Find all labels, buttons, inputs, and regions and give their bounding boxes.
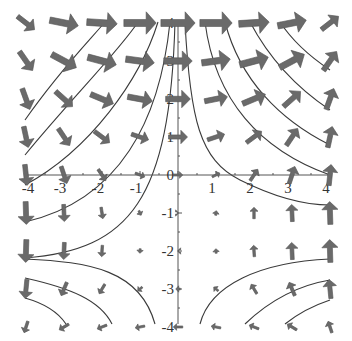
vector-arrow-icon bbox=[320, 125, 339, 149]
vector-arrow-icon bbox=[18, 201, 35, 224]
y-tick-label: -3 bbox=[162, 281, 175, 297]
vector-arrow-icon bbox=[250, 207, 258, 218]
y-tick-label: 0 bbox=[167, 167, 175, 183]
vector-arrow-icon bbox=[18, 279, 33, 299]
vector-arrow-icon bbox=[136, 285, 145, 294]
vector-arrow-icon bbox=[20, 320, 32, 334]
vector-arrow-icon bbox=[238, 11, 270, 34]
vector-arrow-icon bbox=[136, 209, 144, 216]
streamline bbox=[25, 259, 155, 324]
vector-arrow-icon bbox=[137, 248, 144, 253]
vector-arrow-icon bbox=[98, 245, 107, 257]
vector-arrow-icon bbox=[317, 10, 343, 35]
vector-arrow-icon bbox=[176, 286, 181, 292]
streamline bbox=[185, 22, 330, 205]
vector-arrow-icon bbox=[57, 321, 71, 333]
vector-arrow-icon bbox=[173, 324, 183, 331]
vector-arrow-icon bbox=[58, 204, 71, 222]
vector-field-plot: -4-3-2-11234-4-3-2-101234 bbox=[0, 0, 352, 341]
vector-arrow-icon bbox=[124, 49, 155, 73]
streamline bbox=[225, 22, 330, 145]
vector-arrow-icon bbox=[276, 10, 309, 36]
vector-arrow-icon bbox=[47, 46, 81, 77]
vector-arrow-icon bbox=[317, 47, 344, 75]
vector-arrow-icon bbox=[52, 124, 75, 149]
vector-arrow-icon bbox=[203, 89, 229, 110]
x-tick-label: -2 bbox=[92, 180, 105, 196]
vector-arrow-icon bbox=[85, 47, 119, 75]
vector-arrow-icon bbox=[250, 245, 259, 257]
x-tick-label: 2 bbox=[246, 180, 254, 196]
vector-arrow-icon bbox=[286, 242, 299, 260]
vector-arrow-icon bbox=[212, 285, 221, 294]
vector-arrow-icon bbox=[280, 124, 303, 149]
y-tick-label: -2 bbox=[162, 243, 175, 259]
vector-arrow-icon bbox=[97, 207, 107, 220]
vector-arrow-icon bbox=[248, 282, 260, 296]
y-tick-label: -1 bbox=[162, 205, 175, 221]
x-tick-label: -1 bbox=[130, 180, 143, 196]
vector-arrow-icon bbox=[86, 11, 118, 34]
vector-arrow-icon bbox=[211, 323, 222, 332]
vector-arrow-icon bbox=[126, 88, 154, 110]
vector-arrow-icon bbox=[90, 126, 113, 148]
vector-arrow-icon bbox=[205, 128, 226, 146]
vector-arrow-icon bbox=[96, 322, 108, 332]
vector-arrow-icon bbox=[48, 10, 81, 36]
vector-arrow-icon bbox=[319, 86, 341, 112]
vector-arrow-icon bbox=[239, 86, 268, 112]
streamline bbox=[200, 259, 330, 324]
streamline bbox=[25, 298, 66, 324]
vector-arrow-icon bbox=[248, 322, 260, 332]
vector-arrow-icon bbox=[286, 204, 299, 222]
streamline bbox=[25, 22, 158, 185]
vector-arrow-icon bbox=[129, 128, 150, 146]
vector-arrow-icon bbox=[242, 126, 265, 148]
vector-arrow-icon bbox=[13, 10, 39, 35]
vector-arrow-icon bbox=[135, 323, 146, 332]
vector-arrow-icon bbox=[124, 12, 156, 34]
streamline bbox=[285, 300, 330, 324]
vector-arrow-icon bbox=[278, 85, 306, 112]
vector-arrow-icon bbox=[213, 248, 220, 253]
vector-arrow-icon bbox=[56, 280, 71, 297]
streamline bbox=[25, 278, 112, 324]
y-tick-label: -4 bbox=[162, 319, 175, 335]
vector-arrow-icon bbox=[324, 320, 336, 334]
vector-arrow-icon bbox=[13, 47, 40, 75]
vector-arrow-icon bbox=[212, 210, 219, 216]
vector-arrow-icon bbox=[237, 47, 271, 75]
vector-arrow-icon bbox=[96, 282, 108, 296]
streamline bbox=[25, 22, 138, 155]
vector-arrow-icon bbox=[322, 279, 337, 299]
x-tick-label: 1 bbox=[208, 180, 216, 196]
